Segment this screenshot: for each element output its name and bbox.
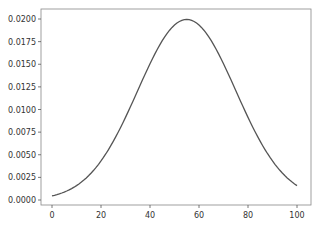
y-tick-label: 0.0025 (8, 173, 36, 182)
y-tick-label: 0.0150 (8, 60, 36, 69)
y-tick-label: 0.0050 (8, 151, 36, 160)
plot-area (41, 9, 311, 205)
line-chart: 0.00000.00250.00500.00750.01000.01250.01… (0, 0, 321, 230)
x-tick-label: 20 (96, 211, 106, 220)
y-tick-label: 0.0000 (8, 196, 36, 205)
y-tick-label: 0.0175 (8, 38, 36, 47)
x-tick-label: 80 (243, 211, 253, 220)
x-axis: 020406080100 (49, 205, 304, 220)
x-tick-label: 100 (289, 211, 304, 220)
x-tick-label: 0 (49, 211, 54, 220)
y-tick-label: 0.0200 (8, 15, 36, 24)
y-tick-label: 0.0075 (8, 128, 36, 137)
y-axis: 0.00000.00250.00500.00750.01000.01250.01… (8, 15, 41, 205)
x-tick-label: 40 (145, 211, 155, 220)
y-tick-label: 0.0125 (8, 83, 36, 92)
y-tick-label: 0.0100 (8, 106, 36, 115)
x-tick-label: 60 (194, 211, 204, 220)
